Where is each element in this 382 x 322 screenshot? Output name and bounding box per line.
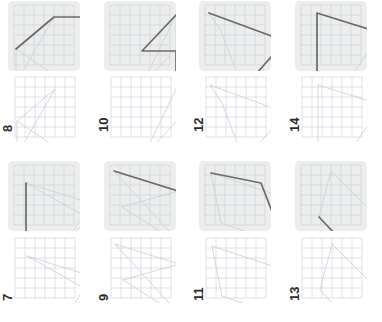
reference-panel	[110, 76, 176, 142]
panel-label: 10	[97, 118, 110, 132]
reference-panel	[14, 237, 80, 303]
faint-shape	[210, 85, 271, 142]
panel-cell: 8	[0, 0, 96, 155]
figure-grid: 8101214791113	[0, 0, 382, 322]
panel-label: 7	[1, 294, 14, 301]
panel-label: 11	[192, 287, 205, 301]
panel-cell: 10	[96, 0, 192, 155]
highlight-panel	[295, 1, 367, 71]
reference-panel	[110, 237, 176, 303]
reference-panel	[14, 76, 80, 142]
panel-cell: 11	[191, 155, 287, 322]
panel-label: 9	[97, 294, 110, 301]
panel-cell: 9	[96, 155, 192, 322]
highlight-panel	[8, 1, 80, 71]
panel-label: 8	[1, 125, 14, 132]
reference-panel	[301, 76, 367, 142]
highlight-panel	[295, 161, 367, 231]
panel-label: 14	[288, 118, 301, 132]
faint-shape	[320, 244, 367, 303]
panel-cell: 12	[191, 0, 287, 155]
highlight-panel	[104, 161, 176, 231]
panel-label: 12	[192, 118, 205, 132]
faint-shape	[115, 244, 176, 303]
panel-cell: 14	[287, 0, 382, 155]
panel-cell: 13	[287, 155, 382, 322]
reference-panel	[301, 237, 367, 303]
faint-shape	[318, 85, 367, 142]
reference-panel	[205, 237, 271, 303]
panel-cell: 7	[0, 155, 96, 322]
panel-label: 13	[288, 287, 301, 301]
highlight-panel	[199, 1, 271, 71]
highlight-panel	[104, 1, 176, 71]
highlight-panel	[8, 161, 80, 231]
faint-shape	[212, 246, 271, 303]
highlight-panel	[199, 161, 271, 231]
reference-panel	[205, 76, 271, 142]
